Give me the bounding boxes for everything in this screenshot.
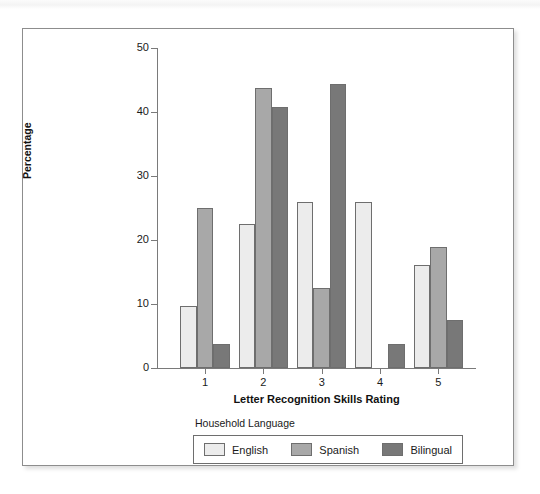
x-axis-tick-label: 4 — [365, 376, 395, 388]
bar-spanish-3 — [313, 288, 329, 368]
legend-item-bilingual[interactable]: Bilingual — [382, 443, 452, 456]
figure-frame: 01020304050 Percentage 12345 Letter Reco… — [22, 28, 514, 466]
bar-english-4 — [355, 202, 371, 368]
x-axis-tick — [205, 369, 206, 374]
plot-area — [157, 48, 475, 368]
y-axis-tick-label: 10 — [123, 297, 149, 309]
y-axis-tick-label: 20 — [123, 233, 149, 245]
bar-spanish-2 — [255, 88, 271, 368]
legend-swatch-icon — [204, 443, 225, 456]
bar-bilingual-3 — [330, 84, 346, 368]
x-axis-tick-label: 5 — [423, 376, 453, 388]
bar-spanish-5 — [430, 247, 446, 368]
legend-item-label: English — [232, 444, 268, 456]
legend-item-spanish[interactable]: Spanish — [291, 443, 359, 456]
legend-item-english[interactable]: English — [204, 443, 268, 456]
bar-bilingual-5 — [447, 320, 463, 368]
bar-bilingual-1 — [213, 344, 229, 368]
bar-bilingual-2 — [272, 107, 288, 368]
legend-block: Household Language EnglishSpanishBilingu… — [193, 417, 463, 464]
bar-english-3 — [297, 202, 313, 368]
legend-swatch-icon — [291, 443, 312, 456]
x-axis-title: Letter Recognition Skills Rating — [157, 393, 476, 405]
bar-bilingual-4 — [388, 344, 404, 368]
bar-english-5 — [414, 265, 430, 368]
x-axis-tick — [263, 369, 264, 374]
y-axis-title: Percentage — [21, 122, 33, 179]
page-top-strip — [0, 0, 540, 9]
plot-wrapper: 01020304050 Percentage 12345 Letter Reco… — [23, 29, 513, 465]
y-axis-tick-label: 0 — [123, 361, 149, 373]
x-axis-tick-label: 3 — [307, 376, 337, 388]
x-axis-tick — [322, 369, 323, 374]
x-axis-tick — [438, 369, 439, 374]
legend-title: Household Language — [193, 417, 463, 429]
x-axis-tick-label: 2 — [248, 376, 278, 388]
bar-spanish-1 — [197, 208, 213, 368]
legend-item-label: Spanish — [319, 444, 359, 456]
x-axis-tick-label: 1 — [190, 376, 220, 388]
y-axis-tick-label: 30 — [123, 169, 149, 181]
bar-english-2 — [239, 224, 255, 368]
legend-swatch-icon — [382, 443, 403, 456]
legend-box: EnglishSpanishBilingual — [193, 435, 463, 464]
y-axis-tick — [151, 368, 157, 369]
x-axis-tick — [380, 369, 381, 374]
y-axis-tick-label: 40 — [123, 105, 149, 117]
y-axis-tick-label: 50 — [123, 41, 149, 53]
legend-item-label: Bilingual — [410, 444, 452, 456]
bar-english-1 — [180, 306, 196, 368]
